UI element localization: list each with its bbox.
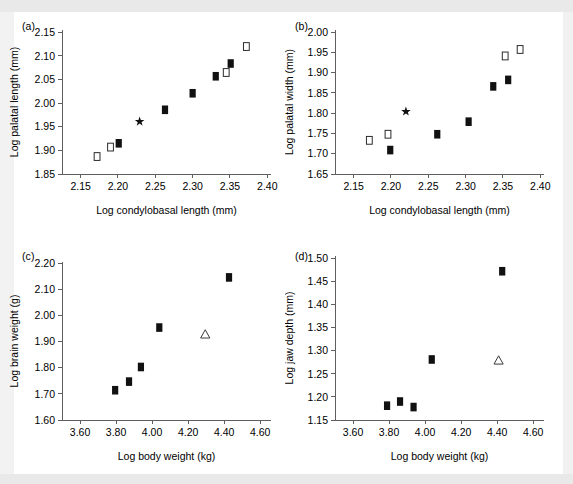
data-point [126, 377, 132, 386]
svg-text:Log condylobasal length (mm): Log condylobasal length (mm) [96, 204, 237, 216]
svg-text:1.90: 1.90 [35, 144, 56, 156]
svg-text:2.10: 2.10 [35, 50, 56, 62]
svg-text:2.15: 2.15 [343, 180, 364, 192]
data-point [138, 363, 144, 372]
svg-text:1.70: 1.70 [35, 388, 56, 400]
svg-text:1.15: 1.15 [308, 414, 329, 426]
series-open-triangle [201, 330, 210, 338]
svg-text:3.80: 3.80 [379, 426, 400, 438]
data-point [517, 46, 523, 54]
svg-text:4.40: 4.40 [214, 426, 235, 438]
svg-text:2.15: 2.15 [70, 180, 91, 192]
svg-text:2.30: 2.30 [455, 180, 476, 192]
data-point [116, 139, 122, 148]
svg-text:1.80: 1.80 [308, 107, 329, 119]
svg-text:2.25: 2.25 [145, 180, 166, 192]
panel-c-plot: 1.601.701.801.902.002.102.203.603.804.00… [0, 244, 288, 480]
svg-text:1.35: 1.35 [308, 321, 329, 333]
svg-text:1.85: 1.85 [35, 168, 56, 180]
svg-text:1.90: 1.90 [35, 335, 56, 347]
data-point [401, 107, 411, 116]
data-point [466, 117, 472, 126]
svg-text:2.20: 2.20 [35, 257, 56, 269]
data-point [490, 82, 496, 91]
svg-text:2.40: 2.40 [257, 180, 278, 192]
svg-text:Log palatal length (mm): Log palatal length (mm) [8, 47, 20, 157]
svg-text:1.75: 1.75 [308, 127, 329, 139]
data-point [397, 397, 403, 406]
svg-text:1.95: 1.95 [35, 120, 56, 132]
series-filled-square [387, 76, 511, 155]
svg-text:Log brain weight (g): Log brain weight (g) [8, 295, 20, 388]
svg-text:2.00: 2.00 [35, 97, 56, 109]
panel-b-plot: 1.651.701.751.801.851.901.952.002.152.20… [285, 8, 573, 244]
data-point [505, 76, 511, 85]
data-point [499, 267, 505, 276]
series-open-triangle [494, 356, 503, 364]
svg-text:2.15: 2.15 [35, 26, 56, 38]
svg-text:Log body weight (kg): Log body weight (kg) [118, 450, 215, 462]
svg-text:1.25: 1.25 [308, 368, 329, 380]
panel-a: (a) 1.851.901.952.002.052.102.152.152.20… [0, 8, 288, 244]
data-point [502, 52, 508, 60]
data-point [108, 143, 114, 151]
svg-text:4.20: 4.20 [451, 426, 472, 438]
data-point [156, 323, 162, 332]
panel-a-plot: 1.851.901.952.002.052.102.152.152.202.25… [0, 8, 288, 244]
svg-text:1.70: 1.70 [308, 147, 329, 159]
data-point [494, 356, 503, 364]
svg-text:1.30: 1.30 [308, 344, 329, 356]
svg-text:3.60: 3.60 [343, 426, 364, 438]
svg-text:1.90: 1.90 [308, 66, 329, 78]
svg-text:4.60: 4.60 [523, 426, 544, 438]
panel-d: (d) 1.151.201.251.301.351.401.451.503.60… [285, 244, 573, 480]
data-point [387, 146, 393, 155]
series-star [135, 117, 145, 126]
series-filled-square [116, 59, 234, 147]
svg-text:Log condylobasal length (mm): Log condylobasal length (mm) [369, 204, 510, 216]
svg-text:2.05: 2.05 [35, 73, 56, 85]
data-point [228, 59, 234, 68]
data-point [190, 89, 196, 98]
svg-text:4.60: 4.60 [250, 426, 271, 438]
data-point [243, 43, 249, 51]
svg-text:2.40: 2.40 [530, 180, 551, 192]
svg-text:3.60: 3.60 [70, 426, 91, 438]
data-point [226, 273, 232, 282]
data-point [162, 105, 168, 114]
data-point [434, 130, 440, 139]
svg-text:2.30: 2.30 [182, 180, 203, 192]
data-point [410, 403, 416, 412]
svg-text:Log body weight (kg): Log body weight (kg) [391, 450, 488, 462]
svg-text:2.00: 2.00 [35, 309, 56, 321]
svg-text:3.80: 3.80 [106, 426, 127, 438]
data-point [112, 386, 118, 395]
data-point [213, 72, 219, 81]
series-open-square [366, 46, 523, 145]
svg-text:4.20: 4.20 [178, 426, 199, 438]
series-filled-square [112, 273, 232, 394]
svg-text:2.10: 2.10 [35, 283, 56, 295]
svg-text:4.40: 4.40 [487, 426, 508, 438]
data-point [384, 401, 390, 410]
svg-text:1.40: 1.40 [308, 298, 329, 310]
data-point [94, 153, 100, 161]
svg-text:2.25: 2.25 [418, 180, 439, 192]
data-point [223, 69, 229, 77]
svg-text:1.20: 1.20 [308, 391, 329, 403]
panel-b: (b) 1.651.701.751.801.851.901.952.002.15… [285, 8, 573, 244]
data-point [385, 130, 391, 138]
data-point [366, 136, 372, 144]
svg-text:1.85: 1.85 [308, 87, 329, 99]
figure-canvas: (a) 1.851.901.952.002.052.102.152.152.20… [0, 0, 573, 484]
svg-text:2.20: 2.20 [108, 180, 129, 192]
svg-text:Log jaw depth (mm): Log jaw depth (mm) [285, 292, 295, 385]
svg-text:1.95: 1.95 [308, 46, 329, 58]
data-point [135, 117, 145, 126]
series-filled-square [384, 267, 505, 411]
svg-text:Log palatal width (mm): Log palatal width (mm) [285, 49, 295, 155]
panel-d-plot: 1.151.201.251.301.351.401.451.503.603.80… [285, 244, 573, 480]
svg-text:4.00: 4.00 [415, 426, 436, 438]
svg-text:2.35: 2.35 [220, 180, 241, 192]
svg-text:2.35: 2.35 [493, 180, 514, 192]
